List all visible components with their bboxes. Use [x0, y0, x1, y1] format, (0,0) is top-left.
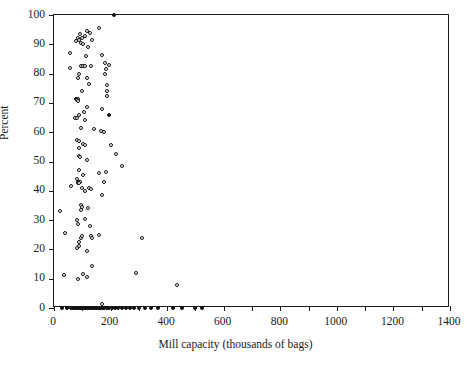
data-point [85, 76, 89, 80]
data-point [85, 105, 89, 109]
data-point [76, 76, 80, 80]
data-point [104, 170, 108, 174]
data-point [85, 158, 89, 162]
data-point [76, 99, 80, 103]
data-point [143, 306, 147, 310]
x-tick-label: 0 [28, 316, 78, 328]
y-tick-mark [49, 44, 54, 45]
data-point [180, 306, 184, 310]
x-tick-label: 1400 [424, 316, 471, 328]
y-tick-mark [49, 220, 54, 221]
data-point [102, 180, 106, 184]
data-point [200, 306, 204, 310]
data-point [77, 240, 81, 244]
data-point [114, 152, 118, 156]
data-point [156, 306, 160, 310]
data-point [83, 189, 87, 193]
data-point [112, 13, 116, 17]
data-point [63, 231, 67, 235]
y-tick-mark [49, 279, 54, 280]
y-tick-label: 40 [5, 184, 45, 196]
data-point [68, 66, 72, 70]
y-tick-label: 70 [5, 96, 45, 108]
data-point [81, 42, 85, 46]
y-tick-mark [49, 132, 54, 133]
data-point [105, 89, 109, 93]
y-tick-label: 30 [5, 214, 45, 226]
plot-area [53, 14, 449, 307]
data-point [171, 306, 175, 310]
data-point [100, 53, 104, 57]
y-tick-mark [49, 74, 54, 75]
x-tick-mark [111, 306, 112, 311]
x-tick-mark [309, 306, 310, 311]
data-point [79, 208, 83, 212]
data-point [88, 31, 92, 35]
data-point [132, 306, 136, 310]
data-point [83, 143, 87, 147]
data-point [84, 54, 88, 58]
data-point [86, 45, 90, 49]
data-point [81, 173, 85, 177]
data-point [149, 306, 153, 310]
x-tick-mark [54, 306, 55, 311]
x-tick-mark [195, 306, 196, 311]
x-tick-mark [422, 306, 423, 311]
y-tick-label: 90 [5, 38, 45, 50]
y-tick-mark [49, 249, 54, 250]
data-point [80, 234, 84, 238]
y-tick-label: 100 [5, 9, 45, 21]
x-tick-mark [82, 306, 83, 311]
y-tick-mark [49, 103, 54, 104]
data-point [105, 83, 109, 87]
data-point [62, 273, 66, 277]
data-point [77, 181, 81, 185]
data-point [107, 63, 111, 67]
data-point [97, 26, 101, 30]
data-point [88, 224, 92, 228]
x-tick-mark [139, 306, 140, 311]
y-tick-mark [49, 191, 54, 192]
y-tick-label: 0 [5, 302, 45, 314]
data-point [103, 72, 107, 76]
x-tick-label: 1200 [367, 316, 417, 328]
data-point [109, 143, 113, 147]
data-points-layer [54, 15, 448, 306]
data-point [120, 164, 124, 168]
data-point [107, 113, 111, 117]
data-point [78, 32, 82, 36]
data-point [85, 275, 89, 279]
data-point [86, 206, 90, 210]
data-point [75, 218, 79, 222]
x-tick-label: 800 [254, 316, 304, 328]
data-point [75, 246, 79, 250]
data-point [89, 64, 93, 68]
data-point [82, 110, 86, 114]
y-tick-label: 10 [5, 272, 45, 284]
x-tick-mark [167, 306, 168, 311]
data-point [92, 127, 96, 131]
x-tick-label: 1000 [311, 316, 361, 328]
x-tick-label: 600 [198, 316, 248, 328]
x-tick-mark [337, 306, 338, 311]
data-point [90, 236, 94, 240]
data-point [105, 94, 109, 98]
x-tick-mark [365, 306, 366, 311]
y-tick-mark [49, 162, 54, 163]
data-point [104, 67, 108, 71]
data-point [83, 217, 87, 221]
x-tick-label: 200 [85, 316, 135, 328]
data-point [85, 249, 89, 253]
data-point [97, 233, 101, 237]
data-point [100, 107, 104, 111]
data-point [75, 116, 79, 120]
data-point [76, 222, 80, 226]
data-point [83, 118, 87, 122]
data-point [80, 89, 84, 93]
data-point [68, 51, 72, 55]
data-point [83, 64, 87, 68]
x-tick-mark [393, 306, 394, 311]
data-point [100, 193, 104, 197]
data-point [74, 39, 78, 43]
data-point [77, 168, 81, 172]
